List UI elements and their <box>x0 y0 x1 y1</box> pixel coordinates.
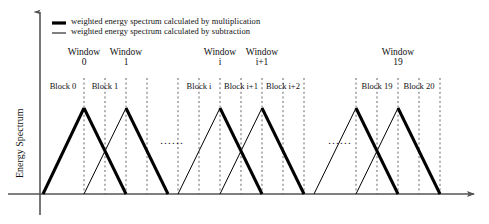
block-label-2: Block i <box>187 82 212 91</box>
window-label-index-4: 19 <box>382 58 414 68</box>
window-label-index-2: i <box>204 58 236 68</box>
block-label-0: Block 0 <box>50 82 77 91</box>
y-axis-label: Energy Spectrum <box>14 108 25 178</box>
window-label-4: Window19 <box>382 48 414 68</box>
legend-label-0: weighted energy spectrum calculated by m… <box>71 17 260 26</box>
ellipsis-middle-right: ...... <box>328 134 352 146</box>
legend-markers <box>52 23 66 33</box>
window-label-name-0: Window <box>68 47 100 57</box>
block-label-4: Block i+2 <box>266 82 300 91</box>
window-label-name-1: Window <box>110 47 142 57</box>
block-label-1: Block 1 <box>92 82 119 91</box>
block-label-3: Block i+1 <box>224 82 258 91</box>
energy-spectrum-window-diagram: Energy Spectrum weighted energy spectrum… <box>0 0 489 224</box>
window-label-index-0: 0 <box>68 58 100 68</box>
window-label-name-2: Window <box>204 47 236 57</box>
block-label-6: Block 20 <box>404 82 435 91</box>
window-label-1: Window1 <box>110 48 142 68</box>
legend-label-1: weighted energy spectrum calculated by s… <box>71 27 250 36</box>
triangle-window-0-rising-edge <box>43 108 84 194</box>
window-label-name-3: Window <box>246 47 278 57</box>
triangle-window-18-rising-edge <box>314 108 356 194</box>
window-label-index-1: 1 <box>110 58 142 68</box>
window-label-2: Windowi <box>204 48 236 68</box>
window-label-name-4: Window <box>382 47 414 57</box>
block-label-5: Block 19 <box>362 82 393 91</box>
window-label-index-3: i+1 <box>246 58 278 68</box>
ellipsis-middle-left: ...... <box>160 134 184 146</box>
window-label-0: Window0 <box>68 48 100 68</box>
block-boundary-guides <box>84 78 440 194</box>
window-label-3: Windowi+1 <box>246 48 278 68</box>
